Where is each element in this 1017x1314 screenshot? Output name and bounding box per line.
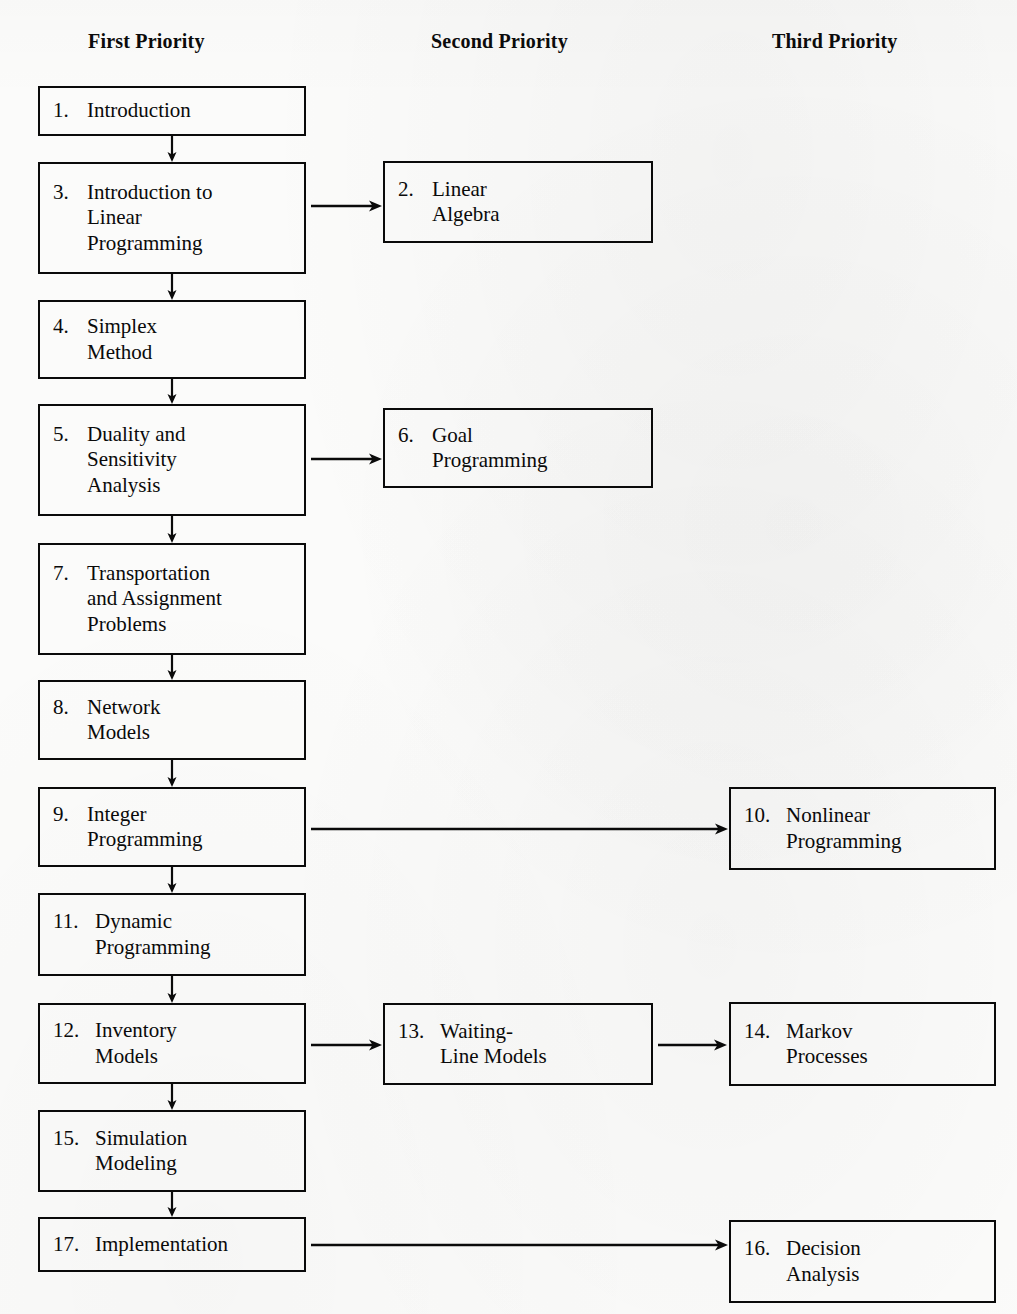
chapter-title: Duality and Sensitivity Analysis [87,422,186,498]
chapter-number: 13. [398,1019,440,1044]
chapter-node-14[interactable]: 14.Markov Processes [729,1002,996,1086]
chapter-number: 17. [53,1232,95,1257]
chapter-number: 5. [53,422,87,447]
chapter-title: Goal Programming [432,423,548,473]
connector-n4-to-n5 [162,379,182,404]
chapter-number: 2. [398,177,432,202]
chapter-number: 11. [53,909,95,934]
connector-n11-to-n12 [162,976,182,1003]
chapter-node-9[interactable]: 9.Integer Programming [38,787,306,867]
chapter-node-17[interactable]: 17.Implementation [38,1217,306,1272]
chapter-node-4[interactable]: 4.Simplex Method [38,300,306,379]
chapter-number: 9. [53,802,87,827]
chapter-title: Integer Programming [87,802,203,852]
connector-n8-to-n9 [162,760,182,787]
chapter-title: Markov Processes [786,1019,868,1069]
chapter-node-2[interactable]: 2.Linear Algebra [383,161,653,243]
chapter-node-7[interactable]: 7.Transportation and Assignment Problems [38,543,306,655]
connector-n3-to-n2 [311,196,382,216]
column-header-2: Second Priority [431,30,568,53]
chapter-number: 3. [53,180,87,205]
connector-n9-to-n11 [162,867,182,893]
chapter-number: 12. [53,1018,95,1043]
connector-n1-to-n3 [162,136,182,162]
connector-n5-to-n7 [162,516,182,543]
chapter-title: Transportation and Assignment Problems [87,561,222,637]
connector-n15-to-n17 [162,1192,182,1217]
chapter-title: Network Models [87,695,160,745]
flowchart-canvas: First PrioritySecond PriorityThird Prior… [0,0,1017,1314]
chapter-node-16[interactable]: 16.Decision Analysis [729,1220,996,1303]
chapter-node-15[interactable]: 15.Simulation Modeling [38,1110,306,1192]
chapter-node-10[interactable]: 10.Nonlinear Programming [729,787,996,870]
chapter-number: 7. [53,561,87,586]
chapter-number: 6. [398,423,432,448]
connector-n12-to-n13 [311,1035,382,1055]
connector-n17-to-n16 [311,1235,728,1255]
column-header-1: First Priority [88,30,205,53]
chapter-title: Implementation [95,1232,228,1257]
chapter-node-3[interactable]: 3.Introduction to Linear Programming [38,162,306,274]
chapter-number: 1. [53,98,87,123]
connector-n9-to-n10 [311,819,728,839]
chapter-node-6[interactable]: 6.Goal Programming [383,408,653,488]
connector-n3-to-n4 [162,274,182,300]
chapter-number: 15. [53,1126,95,1151]
chapter-number: 14. [744,1019,786,1044]
chapter-title: Introduction [87,98,191,123]
chapter-number: 16. [744,1236,786,1261]
chapter-title: Introduction to Linear Programming [87,180,212,256]
connector-n5-to-n6 [311,449,382,469]
chapter-title: Inventory Models [95,1018,177,1068]
chapter-number: 4. [53,314,87,339]
chapter-node-11[interactable]: 11.Dynamic Programming [38,893,306,976]
connector-n7-to-n8 [162,655,182,680]
chapter-title: Decision Analysis [786,1236,861,1286]
chapter-number: 10. [744,803,786,828]
chapter-number: 8. [53,695,87,720]
chapter-title: Nonlinear Programming [786,803,902,853]
chapter-node-8[interactable]: 8.Network Models [38,680,306,760]
chapter-title: Dynamic Programming [95,909,211,959]
chapter-node-5[interactable]: 5.Duality and Sensitivity Analysis [38,404,306,516]
chapter-title: Simplex Method [87,314,157,364]
chapter-node-13[interactable]: 13.Waiting- Line Models [383,1003,653,1085]
chapter-node-12[interactable]: 12.Inventory Models [38,1003,306,1084]
column-header-3: Third Priority [772,30,898,53]
connector-n13-to-n14 [658,1035,727,1055]
chapter-title: Simulation Modeling [95,1126,187,1176]
chapter-node-1[interactable]: 1.Introduction [38,86,306,136]
chapter-title: Linear Algebra [432,177,500,227]
connector-n12-to-n15 [162,1084,182,1110]
chapter-title: Waiting- Line Models [440,1019,547,1069]
